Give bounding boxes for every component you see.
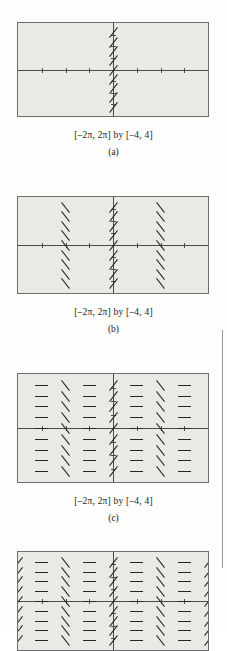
slope-segment — [83, 417, 96, 418]
slope-segment — [35, 581, 48, 582]
x-axis-tick — [66, 68, 67, 73]
slope-segment — [35, 640, 48, 641]
slope-segment — [61, 586, 70, 597]
slope-segment — [178, 611, 191, 612]
slope-segment — [204, 586, 209, 597]
slope-segment — [61, 455, 70, 466]
plot-area-b — [17, 196, 209, 294]
slope-segment — [130, 439, 143, 440]
slope-segment — [83, 630, 96, 631]
slope-segment — [130, 640, 143, 641]
slope-segment — [83, 572, 96, 573]
slope-segment — [156, 391, 165, 402]
slope-segment — [61, 445, 70, 456]
slope-segment — [204, 606, 209, 617]
slope-segment — [35, 428, 48, 429]
slope-segment — [83, 611, 96, 612]
x-axis-tick — [89, 243, 90, 248]
slope-segment — [130, 601, 143, 602]
slope-segment — [178, 406, 191, 407]
caption-range-a: [–2π, 2π] by [–4, 4] — [0, 124, 227, 142]
slope-segment — [178, 417, 191, 418]
slope-segment — [83, 640, 96, 641]
slope-segment — [178, 621, 191, 622]
slope-segment — [61, 401, 70, 412]
slope-segment — [178, 630, 191, 631]
slope-segment — [17, 635, 22, 646]
slope-segment — [83, 460, 96, 461]
caption-range-c: [–2π, 2π] by [–4, 4] — [0, 490, 227, 508]
slope-segment — [178, 471, 191, 472]
slope-segment — [130, 417, 143, 418]
x-axis-tick — [89, 68, 90, 73]
caption-label-text-a: (a) — [108, 147, 119, 157]
page-margin-rule — [222, 330, 223, 568]
slope-segment — [83, 621, 96, 622]
slope-segment — [130, 621, 143, 622]
slope-segment — [204, 557, 209, 568]
slope-segment — [61, 434, 70, 445]
caption-label-a: (a) — [0, 141, 227, 159]
slope-segment — [83, 562, 96, 563]
slope-segment — [35, 611, 48, 612]
plot-area-c — [17, 373, 209, 483]
caption-label-text-b: (b) — [108, 324, 119, 334]
slope-segment — [35, 450, 48, 451]
slope-segment — [61, 635, 70, 646]
x-axis-tick — [137, 243, 138, 248]
slope-segment — [35, 439, 48, 440]
plot-area-a — [17, 22, 209, 117]
x-axis-tick — [184, 68, 185, 73]
slope-segment — [83, 591, 96, 592]
slope-segment — [61, 557, 70, 568]
caption-label-b: (b) — [0, 318, 227, 336]
caption-range-b: [–2π, 2π] by [–4, 4] — [0, 301, 227, 319]
slope-segment — [130, 450, 143, 451]
slope-segment — [178, 428, 191, 429]
slope-segment — [156, 635, 165, 646]
slope-segment — [130, 396, 143, 397]
slope-segment — [130, 385, 143, 386]
slope-segment — [178, 385, 191, 386]
slope-segment — [156, 455, 165, 466]
slope-segment — [83, 428, 96, 429]
slope-segment — [61, 466, 70, 477]
slope-segment — [178, 396, 191, 397]
caption-range-text-c: [–2π, 2π] by [–4, 4] — [74, 496, 153, 506]
slope-segment — [61, 391, 70, 402]
slope-segment — [61, 380, 70, 391]
slope-segment — [178, 591, 191, 592]
slope-segment — [130, 572, 143, 573]
slope-segment — [156, 412, 165, 423]
x-axis-tick — [137, 68, 138, 73]
slope-segment — [178, 460, 191, 461]
slope-segment — [35, 396, 48, 397]
slope-segment — [130, 591, 143, 592]
slope-segment — [178, 640, 191, 641]
slope-segment — [35, 471, 48, 472]
slope-segment — [130, 630, 143, 631]
x-axis-tick — [184, 243, 185, 248]
x-axis-tick — [42, 68, 43, 73]
slope-segment — [83, 439, 96, 440]
slope-segment — [156, 466, 165, 477]
slope-segment — [83, 581, 96, 582]
slope-segment — [35, 621, 48, 622]
caption-range-text-a: [–2π, 2π] by [–4, 4] — [74, 130, 153, 140]
slope-segment — [204, 635, 209, 646]
x-axis-tick — [161, 68, 162, 73]
slope-segment — [156, 557, 165, 568]
slope-segment — [130, 611, 143, 612]
slope-segment — [83, 471, 96, 472]
slope-segment — [130, 406, 143, 407]
slope-segment — [178, 439, 191, 440]
slope-segment — [83, 385, 96, 386]
x-axis-tick — [42, 243, 43, 248]
slope-segment — [130, 428, 143, 429]
slope-segment — [130, 581, 143, 582]
slope-segment — [130, 460, 143, 461]
caption-range-text-b: [–2π, 2π] by [–4, 4] — [74, 307, 153, 317]
slope-segment — [130, 471, 143, 472]
slope-segment — [35, 417, 48, 418]
slope-segment — [35, 460, 48, 461]
